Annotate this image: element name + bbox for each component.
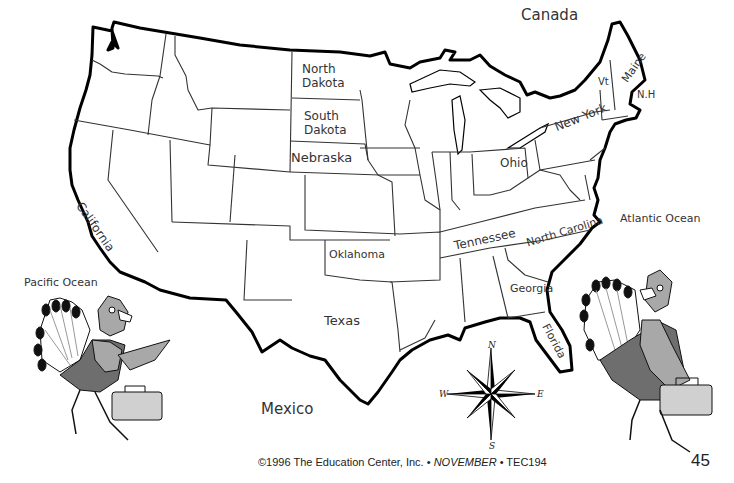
turkey-left-illustration: [34, 296, 170, 440]
label-ohio: Ohio: [500, 157, 528, 169]
compass-north-label: N: [488, 340, 496, 350]
compass-rose: [447, 348, 535, 440]
label-vermont: Vt: [598, 77, 609, 87]
compass-south-label: S: [489, 441, 495, 451]
label-texas: Texas: [324, 314, 360, 327]
label-south-dakota-line2: Dakota: [304, 124, 347, 136]
compass-west-label: W: [439, 389, 448, 399]
turkey-right-illustration: [580, 270, 712, 452]
label-oklahoma: Oklahoma: [329, 249, 385, 260]
code-text: • TEC194: [497, 456, 547, 468]
label-north-dakota-line2: Dakota: [302, 77, 345, 89]
label-canada: Canada: [521, 8, 578, 23]
label-mexico: Mexico: [261, 402, 313, 417]
label-nebraska: Nebraska: [291, 151, 352, 164]
month-text: NOVEMBER: [434, 456, 497, 468]
label-new-hampshire: N.H: [637, 90, 655, 100]
label-pacific-ocean: Pacific Ocean: [24, 277, 98, 288]
copyright-text: ©1996 The Education Center, Inc. •: [258, 456, 434, 468]
page-number: 45: [691, 451, 710, 471]
compass-east-label: E: [537, 389, 544, 399]
copyright-footer: ©1996 The Education Center, Inc. • NOVEM…: [258, 456, 547, 468]
label-south-dakota-line1: South: [304, 110, 339, 122]
label-north-dakota-line1: North: [302, 63, 336, 75]
label-georgia: Georgia: [510, 283, 553, 294]
label-atlantic-ocean: Atlantic Ocean: [620, 213, 701, 224]
